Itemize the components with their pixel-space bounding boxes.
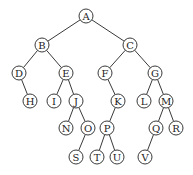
node-label: A: [81, 11, 90, 22]
tree-node-s: S: [69, 150, 83, 164]
node-label: J: [73, 96, 78, 107]
edge-g-m: [158, 80, 164, 95]
edge-c-g: [135, 50, 151, 68]
tree-node-c: C: [123, 38, 137, 52]
edge-b-d: [23, 50, 37, 67]
edge-m-r: [168, 108, 173, 122]
tree-nodes: ABCDEFGHIJKLMNOPQRSTUV: [12, 9, 183, 164]
node-label: L: [141, 96, 148, 107]
node-label: M: [161, 96, 171, 107]
node-label: V: [140, 152, 149, 163]
edge-c-f: [110, 50, 126, 68]
edge-o-s: [79, 134, 86, 150]
tree-node-d: D: [12, 66, 26, 80]
tree-node-o: O: [81, 121, 95, 135]
node-label: Q: [152, 123, 160, 134]
edge-q-v: [147, 135, 153, 151]
tree-node-f: F: [98, 66, 112, 80]
edge-d-h: [22, 80, 28, 95]
node-label: U: [113, 152, 121, 163]
node-label: F: [102, 68, 109, 79]
edge-b-e: [47, 50, 62, 67]
tree-node-g: G: [148, 66, 162, 80]
node-label: G: [151, 68, 159, 79]
edge-f-k: [108, 79, 115, 94]
edge-k-p: [110, 107, 116, 121]
node-label: C: [126, 40, 134, 51]
node-label: S: [73, 152, 80, 163]
node-label: D: [15, 68, 23, 79]
tree-node-q: Q: [149, 121, 163, 135]
node-label: P: [104, 123, 111, 134]
edge-a-b: [48, 20, 80, 41]
tree-canvas: ABCDEFGHIJKLMNOPQRSTUV: [0, 0, 193, 175]
node-label: K: [114, 96, 122, 107]
tree-node-v: V: [138, 150, 152, 164]
node-label: R: [172, 123, 180, 134]
tree-node-r: R: [169, 121, 183, 135]
node-label: B: [38, 40, 45, 51]
edge-p-t: [99, 135, 104, 151]
tree-diagram: ABCDEFGHIJKLMNOPQRSTUV: [0, 0, 193, 175]
tree-node-u: U: [110, 150, 124, 164]
node-label: O: [84, 123, 92, 134]
edge-j-n: [68, 108, 73, 122]
node-label: I: [52, 96, 56, 107]
edge-e-i: [57, 79, 63, 94]
edge-g-l: [147, 80, 153, 95]
edge-e-j: [68, 80, 73, 95]
tree-node-e: E: [59, 66, 73, 80]
node-label: T: [94, 152, 101, 163]
tree-node-i: I: [47, 94, 61, 108]
tree-node-b: B: [35, 38, 49, 52]
node-label: N: [62, 123, 71, 134]
edge-m-q: [158, 108, 163, 122]
edge-j-o: [79, 107, 85, 121]
tree-node-p: P: [100, 121, 114, 135]
node-label: H: [26, 96, 35, 107]
node-label: E: [62, 68, 69, 79]
tree-node-k: K: [111, 94, 125, 108]
tree-node-h: H: [23, 94, 37, 108]
tree-node-j: J: [69, 94, 83, 108]
tree-node-t: T: [90, 150, 104, 164]
edge-a-c: [92, 20, 124, 41]
tree-node-l: L: [137, 94, 151, 108]
edge-p-u: [109, 135, 114, 151]
tree-node-a: A: [79, 9, 93, 23]
tree-node-m: M: [159, 94, 173, 108]
tree-node-n: N: [59, 121, 73, 135]
